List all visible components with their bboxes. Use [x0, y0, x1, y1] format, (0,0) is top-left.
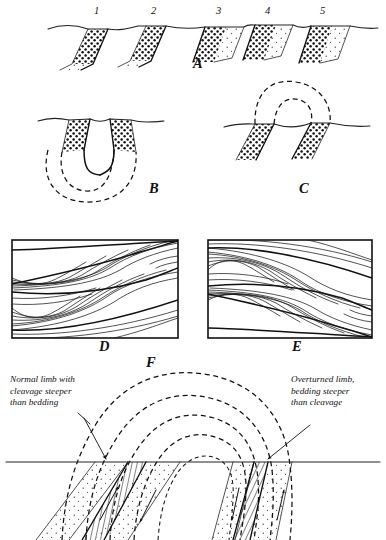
- bed-number-4: 4: [265, 5, 271, 16]
- anticline-dashed-inner: [274, 99, 312, 124]
- overturned-limb-annotation-line-3: than cleavage: [291, 397, 342, 407]
- panel-letter-e: E: [291, 338, 302, 354]
- right-annotation-leader: [268, 425, 310, 459]
- normal-limb-annotation-line-1: Normal limb with: [9, 374, 75, 384]
- syncline-right-outcrop: [110, 119, 136, 152]
- panel-c-anticline: C: [224, 81, 370, 196]
- bed-5: [299, 26, 350, 63]
- syncline-left-outcrop: [62, 119, 90, 152]
- ground-surface-line-b: [38, 118, 164, 122]
- left-annotation-tick: [78, 413, 90, 424]
- normal-limb-annotation: Normal limb with cleavage steeper than b…: [9, 374, 75, 407]
- figure-root: 1 2 3 4 5 A B: [0, 0, 386, 540]
- anticline-right-outcrop: [292, 123, 330, 159]
- geology-figure-svg: 1 2 3 4 5 A B: [0, 0, 386, 540]
- panel-f-overturned-anticline: F Normal limb with cleavage steeper than…: [6, 354, 380, 540]
- ground-surface-line-c: [224, 123, 370, 127]
- bed-4: [243, 25, 293, 60]
- bed-1: [60, 29, 108, 70]
- normal-limb-annotation-line-3: than bedding: [10, 397, 59, 407]
- panel-a-graded-beds: 1 2 3 4 5 A: [48, 5, 378, 71]
- bed-number-1: 1: [94, 5, 99, 16]
- bed-number-2: 2: [151, 5, 157, 16]
- bed-2: [118, 26, 166, 67]
- panel-letter-d: D: [98, 338, 110, 354]
- syncline-dashed-outer: [46, 150, 136, 202]
- panel-letter-f: F: [145, 354, 156, 370]
- panel-letter-b: B: [148, 180, 159, 196]
- anticline-dashed-outer: [255, 81, 330, 124]
- panel-d-crossbedding: D: [12, 240, 178, 354]
- panel-e-crossbedding-inverted: E: [208, 240, 372, 354]
- anticline-left-outcrop: [236, 124, 274, 160]
- overturned-limb-annotation-line-1: Overturned limb,: [291, 374, 354, 384]
- bed-number-3: 3: [215, 5, 221, 16]
- bed-number-5: 5: [320, 5, 325, 16]
- overturned-limb-annotation-line-2: bedding steeper: [291, 386, 350, 396]
- overturned-limb-annotation: Overturned limb, bedding steeper than cl…: [291, 374, 354, 407]
- panel-b-syncline: B: [38, 118, 164, 202]
- panel-letter-a: A: [192, 55, 203, 71]
- syncline-inner-solid-left: [84, 150, 100, 175]
- normal-limb-annotation-line-2: cleavage steeper: [10, 386, 72, 396]
- right-limb-beds: [212, 462, 292, 540]
- panel-letter-c: C: [299, 180, 309, 196]
- syncline-dashed-inner: [61, 150, 114, 191]
- left-limb-beds: [36, 462, 180, 540]
